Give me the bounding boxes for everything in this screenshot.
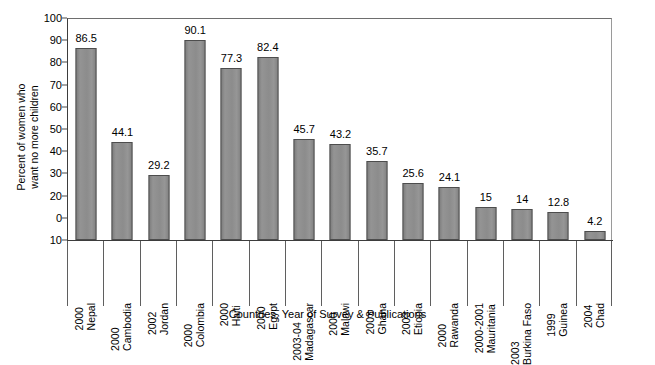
bar-slot: 14 <box>504 19 540 240</box>
y-axis-tick-label: 90 <box>32 35 62 46</box>
y-axis-title-line-1: Percent of women who <box>15 84 28 191</box>
bar[interactable] <box>366 161 387 240</box>
y-axis-tick-mark <box>62 84 67 85</box>
bar-slot: 25.6 <box>395 19 431 240</box>
bar-value-label: 86.5 <box>75 33 96 44</box>
bar-value-label: 45.7 <box>293 124 314 135</box>
bar-slot: 77.3 <box>213 19 249 240</box>
bar-value-label: 82.4 <box>257 42 278 53</box>
bar-slot: 15 <box>468 19 504 240</box>
x-axis-category-label: 2000Colombia <box>176 241 212 306</box>
y-axis-tick-mark <box>62 173 67 174</box>
x-axis-category-label: 2000Malawi <box>321 241 357 306</box>
bar-value-label: 12.8 <box>548 197 569 208</box>
bar[interactable] <box>584 231 605 240</box>
bar-value-label: 25.6 <box>402 168 423 179</box>
x-axis-category-labels: 2000Nepal2000Cambodia2002Jordan2000Colom… <box>67 241 613 306</box>
x-axis-category-label: 2000Nepal <box>67 241 103 306</box>
x-axis-category-label: 2000Cambodia <box>103 241 139 306</box>
y-axis-tick-label: 30 <box>32 168 62 179</box>
y-axis-tick-mark <box>62 106 67 107</box>
x-axis-category-label: 2000-2001Mauritania <box>467 241 503 306</box>
y-axis-tick-label: 20 <box>32 190 62 201</box>
plot-area: 86.544.129.290.177.382.445.743.235.725.6… <box>67 18 612 240</box>
bar-value-label: 29.2 <box>148 160 169 171</box>
bar-value-label: 4.2 <box>587 216 602 227</box>
x-axis-category-label: 2003Etiopia <box>394 241 430 306</box>
bar[interactable] <box>403 183 424 240</box>
x-axis-category-label: 2000Egypt <box>249 241 285 306</box>
y-axis-tick-label: 0 <box>32 212 62 223</box>
bar-slot: 24.1 <box>431 19 467 240</box>
bar-value-label: 35.7 <box>366 146 387 157</box>
bar-slot: 12.8 <box>540 19 576 240</box>
bar-slot: 86.5 <box>68 19 104 240</box>
y-axis-tick-mark <box>62 151 67 152</box>
bar[interactable] <box>185 40 206 240</box>
bar[interactable] <box>330 144 351 240</box>
y-axis-tick-label: 100 <box>32 13 62 24</box>
bar[interactable] <box>112 142 133 240</box>
bar[interactable] <box>294 139 315 240</box>
y-axis-tick-label: 80 <box>32 57 62 68</box>
y-axis-tick-labels: 1009080706050403020010 <box>30 0 62 340</box>
bar-slot: 29.2 <box>141 19 177 240</box>
bar-slot: 45.7 <box>286 19 322 240</box>
bar[interactable] <box>257 57 278 240</box>
y-axis-tick-mark <box>62 40 67 41</box>
x-axis-category-label: 2003-04Madagascar <box>285 241 321 306</box>
bar[interactable] <box>475 207 496 240</box>
y-axis-tick-label: 10 <box>32 235 62 246</box>
bar-value-label: 24.1 <box>439 172 460 183</box>
y-axis-tick-mark <box>62 129 67 130</box>
bar-slot: 43.2 <box>322 19 358 240</box>
bar[interactable] <box>439 187 460 241</box>
bar[interactable] <box>221 68 242 240</box>
x-axis-title: Countries, Year of Survey & Publications <box>0 308 655 320</box>
y-axis-tick-label: 40 <box>32 146 62 157</box>
x-axis-category-label: 2003Ghana <box>358 241 394 306</box>
bar-value-label: 14 <box>516 194 528 205</box>
x-axis-category-label: 2003Burkina Faso <box>503 241 539 306</box>
y-axis-tick-mark <box>62 18 67 19</box>
bar-value-label: 77.3 <box>221 53 242 64</box>
bar[interactable] <box>148 175 169 240</box>
bar-value-label: 43.2 <box>330 129 351 140</box>
bar[interactable] <box>512 209 533 240</box>
bar-slot: 35.7 <box>359 19 395 240</box>
x-axis-category-label: 2002Jordan <box>140 241 176 306</box>
bar-value-label: 44.1 <box>112 127 133 138</box>
bar-value-label: 90.1 <box>184 25 205 36</box>
y-axis-tick-mark <box>62 240 67 241</box>
y-axis-tick-label: 60 <box>32 101 62 112</box>
y-axis-tick-mark <box>62 62 67 63</box>
bar-slot: 82.4 <box>250 19 286 240</box>
bar-value-label: 15 <box>480 192 492 203</box>
bar-slot: 90.1 <box>177 19 213 240</box>
y-axis-tick-mark <box>62 195 67 196</box>
y-axis-tick-label: 70 <box>32 79 62 90</box>
bar-series: 86.544.129.290.177.382.445.743.235.725.6… <box>68 19 611 240</box>
bar-slot: 44.1 <box>104 19 140 240</box>
x-axis-category-label: 2004Chad <box>576 241 612 306</box>
bar[interactable] <box>548 212 569 240</box>
x-axis-category-label: 2000Rawanda <box>430 241 466 306</box>
x-axis-category-label: 2000Haiti <box>212 241 248 306</box>
bar-slot: 4.2 <box>577 19 613 240</box>
y-axis-tick-label: 50 <box>32 124 62 135</box>
bar[interactable] <box>76 48 97 240</box>
y-axis-tick-mark <box>62 217 67 218</box>
x-axis-category-label: 1999Guinea <box>539 241 575 306</box>
